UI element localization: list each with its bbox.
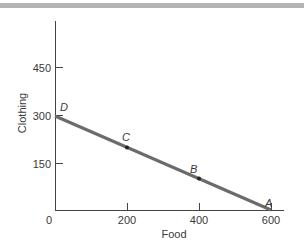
- x-tick-label-600: 600: [262, 214, 280, 226]
- y-tick-label-150: 150: [33, 158, 51, 170]
- point-label-d: D: [60, 101, 68, 113]
- point-b: [197, 177, 201, 181]
- point-label-a: A: [264, 197, 272, 209]
- y-tick-label-300: 300: [33, 110, 51, 122]
- y-tick-label-450: 450: [33, 62, 51, 74]
- origin-label: 0: [46, 214, 52, 226]
- point-c: [125, 146, 129, 150]
- x-tick-label-200: 200: [118, 214, 136, 226]
- budget-line: [55, 116, 271, 210]
- chart: 450 300 150 0 200 400 600 Food Clothing …: [0, 0, 304, 247]
- x-tick-label-400: 400: [190, 214, 208, 226]
- x-axis-label: Food: [161, 228, 186, 240]
- point-label-c: C: [122, 131, 130, 143]
- point-label-b: B: [190, 163, 197, 175]
- y-axis-label: Clothing: [16, 93, 28, 133]
